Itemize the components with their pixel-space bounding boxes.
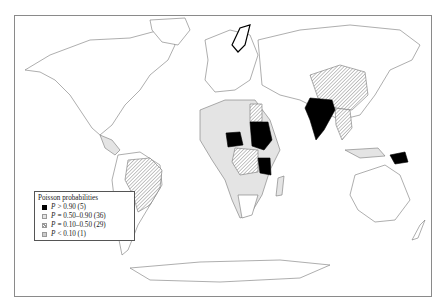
indonesia bbox=[345, 148, 385, 158]
world-map bbox=[0, 0, 444, 308]
swatch-stippled-icon bbox=[42, 232, 47, 237]
antarctica bbox=[130, 260, 330, 282]
india bbox=[305, 98, 335, 140]
legend-item-light: P = 0.50–0.90 (36) bbox=[38, 212, 131, 221]
new-zealand bbox=[412, 220, 425, 240]
legend-item-hatched: P = 0.10–0.50 (29) bbox=[38, 221, 131, 230]
legend-item-black: P > 0.90 (5) bbox=[38, 203, 131, 212]
papua-new-guinea bbox=[390, 152, 408, 164]
swatch-light-icon bbox=[42, 214, 47, 219]
swatch-hatched-icon bbox=[42, 223, 47, 228]
north-america bbox=[25, 30, 175, 135]
australia bbox=[350, 165, 410, 222]
egypt bbox=[250, 104, 262, 122]
central-america bbox=[100, 135, 120, 155]
legend-item-stippled: P < 0.10 (1) bbox=[38, 230, 131, 239]
legend: Poisson probabilities P > 0.90 (5) P = 0… bbox=[34, 191, 135, 241]
tanzania bbox=[258, 158, 271, 175]
madagascar bbox=[276, 176, 284, 196]
swatch-black-icon bbox=[42, 205, 47, 210]
central-african-republic bbox=[226, 132, 243, 147]
legend-title: Poisson probabilities bbox=[38, 194, 131, 203]
southeast-asia bbox=[335, 108, 352, 140]
europe bbox=[205, 30, 258, 92]
